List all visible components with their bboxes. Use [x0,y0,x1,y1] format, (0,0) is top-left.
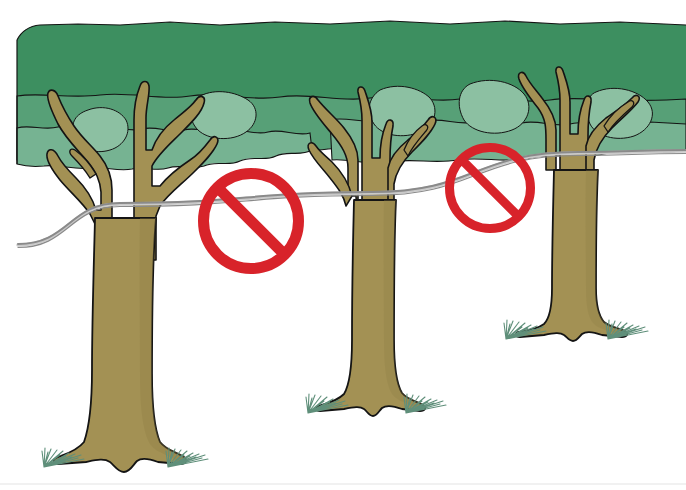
illustration-scene [0,0,686,490]
illustration-canvas [0,0,686,490]
canopy-pale-blob-3 [459,80,529,133]
